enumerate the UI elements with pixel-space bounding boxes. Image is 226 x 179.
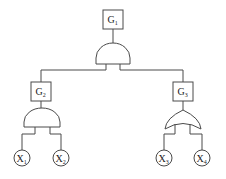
basic-event-x3: X3 — [156, 150, 172, 166]
and-gate-icon — [24, 108, 60, 127]
connector-gate2-x2 — [50, 127, 61, 150]
or-gate-icon — [165, 110, 201, 129]
basic-event-x1: X1 — [14, 150, 30, 166]
event-g3: G3 — [173, 82, 193, 101]
connector-gate1-g3 — [120, 64, 183, 82]
and-gate-icon — [96, 43, 130, 64]
event-g2: G2 — [31, 82, 51, 101]
basic-event-x4: X4 — [194, 150, 210, 166]
connector-gate1-g2 — [41, 64, 106, 82]
connector-gate2-x1 — [22, 127, 35, 150]
basic-event-x2: X2 — [53, 150, 69, 166]
fault-tree-diagram: G1 G2 X1 X2 G3 X3 X4 — [0, 0, 226, 179]
event-g1: G1 — [103, 10, 123, 29]
